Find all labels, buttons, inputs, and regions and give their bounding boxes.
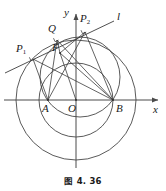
label-point-F: F: [52, 42, 59, 53]
figure-caption: 图 4. 36: [0, 174, 166, 186]
label-point-P2-subscript: 2: [87, 18, 90, 25]
label-point-P2: P2: [80, 13, 90, 24]
label-point-P1-base: P: [16, 42, 23, 54]
label-axis-x: x: [153, 104, 158, 115]
label-point-A: A: [42, 103, 49, 114]
point-dot-O: [75, 99, 77, 101]
point-dot-A: [47, 99, 49, 101]
label-axis-y: y: [64, 7, 69, 18]
point-dot-F: [59, 52, 61, 54]
point-dots-group: [47, 52, 114, 101]
label-point-P1-subscript: 1: [23, 48, 26, 55]
label-point-P2-base: P: [80, 12, 87, 24]
point-dot-B: [112, 99, 114, 101]
label-line-l: l: [117, 11, 120, 22]
figure-container: y x O A B P1 P2 Q F l 图 4. 36: [0, 0, 166, 191]
label-origin-O: O: [68, 103, 76, 114]
geometry-diagram: [0, 0, 166, 171]
segment-F-to-P2: [60, 32, 85, 53]
segments-group: [33, 32, 113, 100]
label-point-P1: P1: [16, 43, 26, 54]
label-point-Q: Q: [48, 23, 56, 34]
label-point-B: B: [116, 103, 123, 114]
